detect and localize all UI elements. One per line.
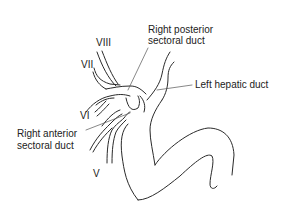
duct-left-inner bbox=[150, 100, 162, 165]
label-right-posterior-2: sectoral duct bbox=[148, 35, 205, 46]
posterior-duct-lower bbox=[86, 95, 130, 113]
anterior-trunk-b bbox=[112, 120, 126, 163]
biliary-duct-diagram: VIII VII VI V Right posterior sectoral d… bbox=[0, 0, 292, 220]
duct-drawing bbox=[0, 0, 292, 220]
left-hepatic-duct-a bbox=[147, 52, 170, 100]
label-segment-vii: VII bbox=[81, 59, 93, 70]
junction-right bbox=[140, 96, 145, 112]
leader-right-anterior bbox=[86, 113, 130, 130]
common-duct-left bbox=[121, 124, 138, 200]
leader-left-hepatic bbox=[157, 85, 192, 90]
duct-viii-a bbox=[97, 52, 116, 86]
label-segment-viii: VIII bbox=[96, 37, 111, 48]
label-segment-vi: VI bbox=[80, 110, 89, 121]
common-duct-bottom bbox=[138, 155, 217, 200]
label-right-anterior-2: sectoral duct bbox=[17, 140, 74, 151]
common-duct-top bbox=[155, 128, 234, 175]
duct-vii-b bbox=[93, 72, 106, 89]
label-right-anterior-1: Right anterior bbox=[17, 128, 77, 139]
junction-loop bbox=[126, 96, 140, 110]
posterior-duct-upper bbox=[106, 86, 146, 94]
leader-right-posterior bbox=[128, 48, 148, 90]
anterior-trunk bbox=[107, 112, 130, 163]
duct-v-a bbox=[90, 114, 122, 150]
label-right-posterior-1: Right posterior bbox=[148, 24, 213, 35]
duct-vi-a bbox=[95, 101, 106, 112]
label-left-hepatic-duct: Left hepatic duct bbox=[195, 79, 268, 90]
label-segment-v: V bbox=[93, 168, 100, 179]
duct-vi-b bbox=[97, 104, 109, 116]
